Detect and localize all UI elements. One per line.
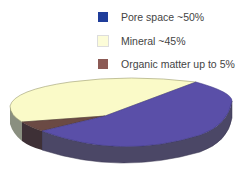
pie-chart-3d	[0, 0, 249, 172]
